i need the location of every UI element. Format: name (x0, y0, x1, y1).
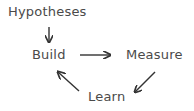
arrow-learn-to-build-icon (58, 72, 79, 91)
diagram-canvas: Hypotheses Build Measure Learn (0, 0, 194, 111)
arrow-measure-to-learn-icon (135, 72, 155, 92)
arrows-layer (0, 0, 194, 111)
